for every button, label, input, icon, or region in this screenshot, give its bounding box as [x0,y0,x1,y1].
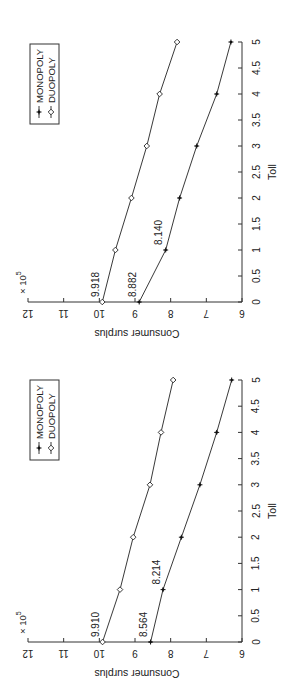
y-tick-label: 12 [22,648,34,659]
y-tick-label: 10 [93,648,105,659]
star-marker-icon [177,196,182,201]
y-axis-label: Consumer surplus [94,328,179,340]
legend-label: DUOPOLY [46,57,57,103]
x-tick-label: 2.5 [251,504,262,518]
x-tick-label: 4 [251,429,262,435]
x-tick-label: 1 [251,586,262,592]
diamond-marker-icon [147,482,153,488]
star-marker-icon [228,40,233,45]
x-tick-label: 0.5 [251,269,262,283]
x-tick-label: 0 [251,299,262,305]
x-tick-label: 4.5 [251,61,262,75]
legend-label: DUOPOLY [46,393,57,439]
x-tick-label: 3 [251,482,262,488]
star-marker-icon [197,482,202,487]
diamond-marker-icon [113,247,119,253]
diamond-marker-icon [174,39,180,45]
data-annotation: 8.140 [153,220,164,245]
diamond-marker-icon [170,377,176,383]
data-annotation: 8.214 [151,559,162,584]
y-tick-label: 9 [132,308,138,319]
series-monopoly [137,40,234,305]
star-marker-icon [148,640,153,645]
data-annotation: 8.564 [138,612,149,637]
series-duopoly [99,39,179,305]
diamond-marker-icon [117,587,123,593]
y-multiplier-label: × 105 [15,271,28,294]
diamond-marker-icon [158,430,164,436]
star-marker-icon [194,144,199,149]
diamond-marker-icon [100,639,106,645]
legend-label: MONOPOLY [34,384,45,439]
star-marker-icon [229,378,234,383]
chart-plot-right: 678910111200.511.522.533.544.55TollConsu… [0,0,286,342]
series-monopoly [148,378,234,645]
y-tick-label: 8 [167,308,173,319]
y-tick-label: 8 [167,648,173,659]
x-tick-label: 0 [251,639,262,645]
star-marker-icon [214,92,219,97]
axes [28,380,242,642]
x-tick-label: 5 [251,39,262,45]
legend: MONOPOLYDUOPOLY [30,44,59,124]
x-tick-label: 2.5 [251,165,262,179]
x-tick-label: 3.5 [251,113,262,127]
x-tick-label: 4.5 [251,399,262,413]
y-tick-label: 7 [203,308,209,319]
x-tick-label: 4 [251,91,262,97]
chart-plot-left: 678910111200.511.522.533.544.55TollConsu… [0,340,286,685]
x-tick-label: 1.5 [251,217,262,231]
series-duopoly [100,377,176,645]
x-axis-label: Toll [266,503,278,519]
y-multiplier-label: × 105 [15,611,28,634]
axes [28,42,242,302]
y-tick-label: 6 [239,648,245,659]
x-tick-label: 1.5 [251,556,262,570]
x-tick-label: 3 [251,143,262,149]
data-annotation: 8.882 [127,272,138,297]
y-tick-label: 11 [58,648,69,659]
star-marker-icon [163,248,168,253]
y-tick-label: 10 [93,308,105,319]
x-tick-label: 5 [251,377,262,383]
x-axis-label: Toll [266,164,278,180]
y-tick-label: 9 [132,648,138,659]
y-axis-label: Consumer surplus [94,668,179,680]
legend-label: MONOPOLY [34,48,45,103]
diamond-marker-icon [130,534,136,540]
data-annotation: 9.918 [90,272,101,297]
star-marker-icon [214,430,219,435]
data-annotation: 9.910 [90,612,101,637]
diamond-marker-icon [144,143,150,149]
diamond-marker-icon [99,299,105,305]
chart-panel-left: 678910111200.511.522.533.544.55TollConsu… [0,340,286,682]
diamond-marker-icon [157,91,163,97]
y-tick-label: 6 [239,308,245,319]
star-marker-icon [179,535,184,540]
y-tick-label: 12 [22,308,34,319]
star-marker-icon [161,587,166,592]
x-tick-label: 2 [251,534,262,540]
y-tick-label: 11 [58,308,69,319]
x-tick-label: 3.5 [251,451,262,465]
chart-panel-right: 678910111200.511.522.533.544.55TollConsu… [0,0,286,342]
x-tick-label: 1 [251,247,262,253]
y-tick-label: 7 [203,648,209,659]
x-tick-label: 2 [251,195,262,201]
star-marker-icon [137,300,142,305]
diamond-marker-icon [129,195,135,201]
x-tick-label: 0.5 [251,608,262,622]
legend: MONOPOLYDUOPOLY [30,380,59,460]
